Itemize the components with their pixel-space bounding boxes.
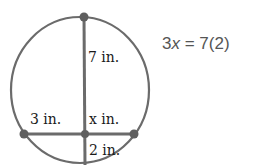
chord-diagram: 7 in. 3 in. x in. 2 in. 3x = 7(2) [0, 0, 269, 168]
equation-coef: 3 [162, 34, 171, 53]
right-point [130, 130, 139, 139]
circle [11, 17, 149, 163]
intersection-point [81, 130, 89, 138]
label-right-segment: x in. [89, 111, 119, 127]
top-point [80, 13, 89, 22]
equation-rhs: = 7(2) [180, 34, 230, 53]
label-left-segment: 3 in. [30, 111, 61, 127]
label-lower-segment: 2 in. [89, 142, 120, 158]
label-upper-segment: 7 in. [88, 49, 119, 65]
equation: 3x = 7(2) [162, 34, 230, 53]
vertical-chord [84, 17, 85, 165]
equation-var: x [170, 34, 180, 53]
left-point [20, 130, 29, 139]
